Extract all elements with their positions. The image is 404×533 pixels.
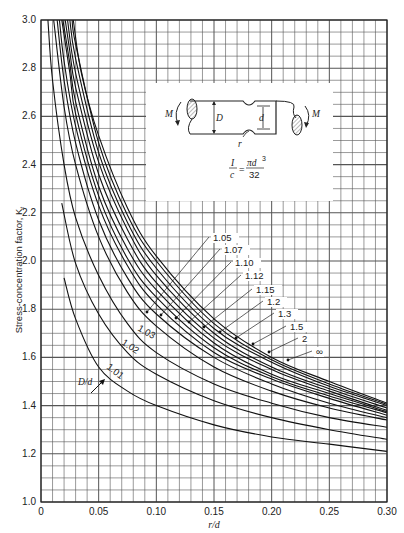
curve-dd-1.2	[65, 20, 387, 410]
x-tick-label: 0.15	[204, 506, 224, 517]
inset-d-label: d	[259, 113, 264, 123]
y-tick-label: 3.0	[22, 14, 36, 25]
x-tick-label: 0.20	[262, 506, 282, 517]
curve-label-1.07: 1.07	[224, 244, 243, 255]
y-tick-label: 1.6	[22, 351, 36, 362]
curve-label-1.05: 1.05	[213, 232, 232, 243]
y-tick-label: 1.0	[22, 496, 36, 507]
x-tick-label: 0.30	[377, 506, 397, 517]
inset-diagram: M M D d r I c = πd 3 32	[146, 83, 333, 201]
formula-denominator: 32	[249, 169, 260, 180]
curve-label-1.2: 1.2	[267, 296, 280, 307]
x-axis-label: r/d	[208, 519, 221, 530]
x-tick-label: 0.10	[147, 506, 167, 517]
curve-label-1.10: 1.10	[235, 257, 254, 268]
curve-dd-1.10	[59, 20, 387, 415]
stress-concentration-chart: M M D d r I c = πd 3 32 1.051.071.101.12…	[0, 0, 404, 533]
x-tick-label: 0.25	[320, 506, 340, 517]
curve-label-2: 2	[302, 333, 307, 344]
y-tick-label: 2.4	[22, 159, 36, 170]
y-tick-label: 1.4	[22, 400, 36, 411]
inset-D-label: D	[215, 113, 223, 123]
x-tick-label: 0	[38, 506, 44, 517]
inset-r-label: r	[238, 139, 242, 149]
y-tick-label: 2.6	[22, 110, 36, 121]
y-tick-label: 2.0	[22, 255, 36, 266]
formula-pi-d: πd	[247, 158, 257, 168]
curve-label-1.3: 1.3	[278, 308, 291, 319]
curve-label-1.12: 1.12	[245, 270, 264, 281]
curve-dd-1.15	[63, 20, 387, 412]
y-tick-label: 2.8	[22, 62, 36, 73]
x-tick-label: 0.05	[89, 506, 109, 517]
inset-moment-left: M	[164, 109, 174, 119]
inset-moment-right: M	[311, 109, 321, 119]
formula-equals: =	[239, 163, 245, 174]
y-axis-label-text: Stress-concentration factor, K	[13, 208, 24, 333]
dd-label: D/d	[77, 377, 93, 387]
curve-label-1.15: 1.15	[256, 284, 275, 295]
curve-label-∞: ∞	[316, 346, 323, 357]
y-tick-label: 1.2	[22, 448, 36, 459]
y-tick-label: 1.8	[22, 303, 36, 314]
curve-label-1.02: 1.02	[120, 336, 142, 355]
curve-label-1.5: 1.5	[290, 321, 303, 332]
formula-exponent: 3	[262, 155, 266, 162]
